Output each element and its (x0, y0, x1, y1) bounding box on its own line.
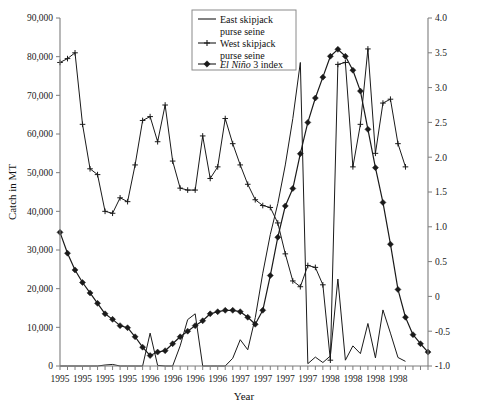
y-tick-label-left: 60,000 (27, 129, 53, 139)
marker-diamond (72, 267, 78, 273)
y-tick-label-right: 0.5 (435, 257, 447, 267)
y-tick-label-left: 40,000 (27, 207, 53, 217)
series-line-el-nino-index (60, 49, 428, 355)
marker-diamond (290, 186, 296, 192)
marker-diamond (395, 286, 401, 292)
y-tick-label-right: 1.0 (435, 222, 447, 232)
y-tick-label-left: 80,000 (27, 52, 53, 62)
marker-diamond (305, 119, 311, 125)
y-tick-label-right: -1.0 (435, 361, 450, 371)
legend-label-nino: El Niño 3 index (219, 59, 283, 70)
x-tick-label: 1996 (163, 374, 182, 384)
y-tick-label-right: 2.0 (435, 153, 447, 163)
x-tick-label: 1998 (343, 374, 362, 384)
marker-diamond (365, 126, 371, 132)
chart-canvas: 010,00020,00030,00040,00050,00060,00070,… (0, 0, 483, 410)
x-tick-label: 1995 (51, 374, 70, 384)
y-tick-label-left: 70,000 (27, 91, 53, 101)
legend-label-nino-italic: El Niño (219, 59, 251, 70)
marker-diamond (402, 314, 408, 320)
x-tick-label: 1997 (298, 374, 317, 384)
x-axis-title: Year (234, 390, 255, 402)
marker-diamond (275, 234, 281, 240)
x-tick-label: 1996 (141, 374, 160, 384)
marker-diamond (155, 349, 161, 355)
marker-diamond (380, 199, 386, 205)
marker-diamond (230, 307, 236, 313)
legend-label-west: West skipjack (220, 38, 276, 49)
x-tick-label: 1998 (388, 374, 407, 384)
marker-diamond (312, 95, 318, 101)
marker-diamond (215, 309, 221, 315)
legend-label-east-line2: purse seine (220, 26, 265, 37)
chart-figure: 010,00020,00030,00040,00050,00060,00070,… (0, 0, 483, 410)
y-tick-label-right: 3.0 (435, 83, 447, 93)
x-tick-label: 1996 (208, 374, 227, 384)
legend-label-nino-rest: 3 index (251, 59, 283, 70)
legend-layer: East skipjackpurse seineWest skipjackpur… (192, 10, 296, 70)
y-axis-title: Catch in MT (6, 164, 18, 220)
x-tick-label: 1997 (253, 374, 272, 384)
marker-diamond (260, 307, 266, 313)
x-tick-label: 1995 (96, 374, 115, 384)
marker-diamond (387, 241, 393, 247)
y-tick-label-right: -0.5 (435, 327, 450, 337)
y-tick-label-left: 90,000 (27, 13, 53, 23)
x-tick-label: 1997 (231, 374, 250, 384)
y-tick-label-left: 30,000 (27, 245, 53, 255)
y-tick-label-right: 3.5 (435, 48, 447, 58)
y-tick-label-right: 2.5 (435, 118, 447, 128)
y-tick-label-left: 20,000 (27, 284, 53, 294)
x-tick-label: 1995 (118, 374, 137, 384)
x-tick-label: 1997 (276, 374, 295, 384)
marker-diamond (267, 273, 273, 279)
marker-diamond (350, 67, 356, 73)
marker-diamond (320, 74, 326, 80)
y-tick-label-left: 10,000 (27, 323, 53, 333)
x-tick-label: 1995 (73, 374, 92, 384)
marker-diamond (357, 88, 363, 94)
x-tick-label: 1996 (186, 374, 205, 384)
marker-diamond (222, 307, 228, 313)
y-tick-label-right: 0 (435, 292, 440, 302)
marker-diamond (65, 250, 71, 256)
marker-diamond (282, 203, 288, 209)
y-tick-label-right: 4.0 (435, 13, 447, 23)
x-tick-label: 1998 (321, 374, 340, 384)
y-tick-label-left: 0 (48, 361, 53, 371)
legend-label-east: East skipjack (220, 14, 273, 25)
series-layer (57, 46, 431, 366)
marker-diamond (372, 165, 378, 171)
x-tick-label: 1998 (366, 374, 385, 384)
y-tick-label-left: 50,000 (27, 168, 53, 178)
y-tick-label-right: 1.5 (435, 187, 447, 197)
